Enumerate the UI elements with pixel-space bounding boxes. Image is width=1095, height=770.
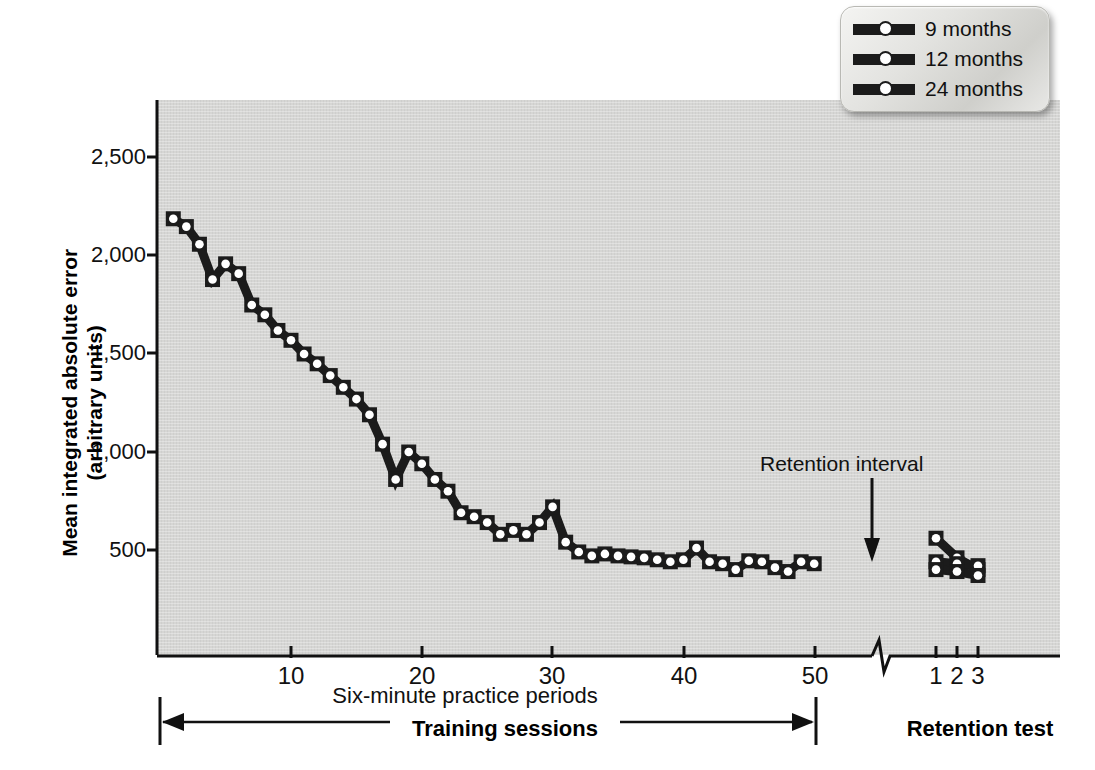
- legend-label: 9 months: [925, 17, 1011, 41]
- legend[interactable]: 9 months 12 months 24 months: [840, 6, 1050, 112]
- legend-marker-icon: [853, 54, 915, 65]
- x-axis-title: Six-minute practice periods: [250, 683, 680, 709]
- legend-item-24-months[interactable]: 24 months: [853, 75, 1023, 103]
- retention-test-label: Retention test: [870, 716, 1090, 742]
- training-sessions-label: Training sessions: [395, 716, 615, 742]
- legend-item-12-months[interactable]: 12 months: [853, 45, 1023, 73]
- legend-marker-icon: [853, 84, 915, 95]
- figure-container: 2,500 2,000 1,500 1,000 500 10 20 30 40 …: [0, 0, 1095, 770]
- y-axis-title-line1: Mean integrated absolute error: [58, 193, 83, 613]
- xtick-label-retention-1: 1: [929, 662, 942, 690]
- y-axis-title-line2: (arbitrary units): [83, 193, 108, 613]
- xtick-label-retention-3: 3: [971, 662, 984, 690]
- legend-label: 12 months: [925, 47, 1023, 71]
- x-axis-tick-labels: 10 20 30 40 50 1 2 3: [0, 0, 1095, 770]
- xtick-label-retention-2: 2: [950, 662, 963, 690]
- retention-interval-annotation: Retention interval: [760, 452, 923, 476]
- legend-label: 24 months: [925, 77, 1023, 101]
- legend-item-9-months[interactable]: 9 months: [853, 15, 1011, 43]
- y-axis-title: Mean integrated absolute error (arbitrar…: [58, 193, 108, 613]
- legend-marker-icon: [853, 24, 915, 35]
- xtick-label-50: 50: [802, 662, 829, 690]
